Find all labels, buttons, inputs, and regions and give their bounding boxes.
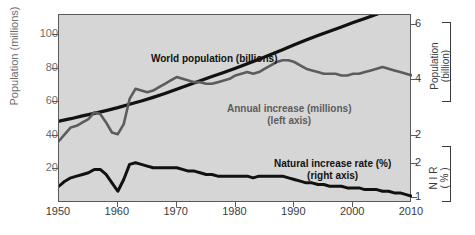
y-axis-left-tick-label: 40 bbox=[28, 128, 58, 140]
y-axis-left-title: Population (millions) bbox=[8, 0, 20, 116]
y-axis-right-tick-mark bbox=[411, 24, 417, 25]
chart-figure: Population (millions) 20406080100 World … bbox=[0, 0, 475, 235]
y-axis-left-tick-label: 100 bbox=[28, 27, 58, 39]
x-axis-tick-mark bbox=[352, 202, 353, 207]
annotation-annual-increase: Annual increase (millions) (left axis) bbox=[227, 103, 351, 127]
y-axis-right-tick-label: 2 bbox=[415, 156, 429, 168]
y-axis-left-tick-label: 80 bbox=[28, 61, 58, 73]
x-axis-tick-mark bbox=[235, 202, 236, 207]
y-axis-right-top-title-line1: Population bbox=[429, 42, 440, 89]
y-axis-right-tick-label: 1 bbox=[415, 190, 429, 202]
y-axis-left-tick-label: 20 bbox=[28, 161, 58, 173]
annotation-world-population: World population (billions) bbox=[151, 53, 277, 65]
y-axis-right-tick-mark bbox=[411, 79, 417, 80]
y-axis-right-top-title-line2: (billion) bbox=[440, 50, 451, 82]
x-axis-tick-mark bbox=[117, 202, 118, 207]
y-axis-right-bottom-title-line2: ( % ) bbox=[439, 167, 450, 188]
annotation-annual-increase-line2: (left axis) bbox=[267, 115, 311, 126]
y-axis-right-tick-mark bbox=[411, 163, 417, 164]
x-axis-tick-label: 1950 bbox=[38, 205, 78, 217]
x-axis-tick-mark bbox=[176, 202, 177, 207]
y-axis-left-tick-label: 60 bbox=[28, 94, 58, 106]
y-axis-right-tick-label: 4 bbox=[415, 72, 429, 84]
y-axis-right-top-title: Population (billion) bbox=[429, 23, 451, 109]
y-axis-right-bottom-title-line1: N I R bbox=[428, 167, 439, 190]
annotation-natural-increase-rate: Natural increase rate (%) (right axis) bbox=[274, 158, 391, 182]
y-axis-right-tick-label: 2 bbox=[415, 128, 429, 140]
plot-area: World population (billions) Annual incre… bbox=[58, 14, 411, 202]
annotation-nir-line2: (right axis) bbox=[307, 170, 358, 181]
y-axis-right-tick-label: 6 bbox=[415, 17, 429, 29]
annotation-annual-increase-line1: Annual increase (millions) bbox=[227, 103, 351, 114]
clipped-caption-fragment bbox=[466, 6, 475, 38]
annotation-nir-line1: Natural increase rate (%) bbox=[274, 158, 391, 169]
annual-increase-line bbox=[59, 60, 412, 141]
y-axis-right-bottom-title: N I R ( % ) bbox=[428, 145, 450, 211]
x-axis-tick-mark bbox=[293, 202, 294, 207]
y-axis-right-tick-mark bbox=[411, 135, 417, 136]
x-axis-tick-label: 2010 bbox=[391, 205, 431, 217]
y-axis-right-tick-mark bbox=[411, 197, 417, 198]
